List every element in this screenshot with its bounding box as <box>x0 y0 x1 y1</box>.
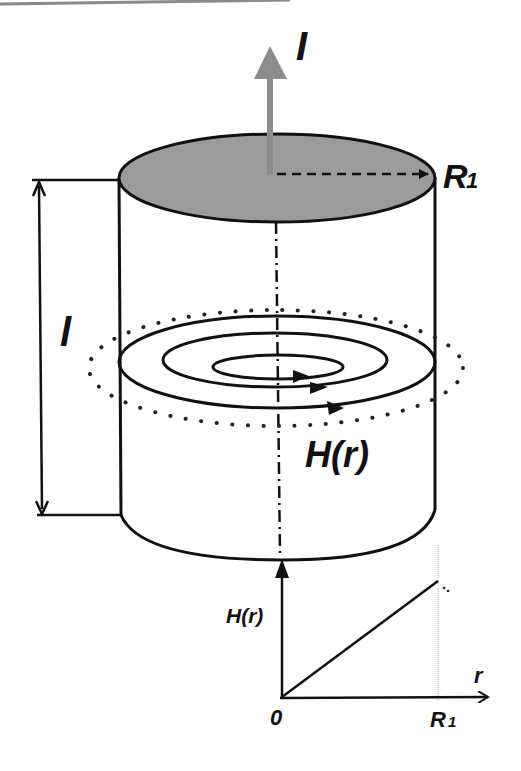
svg-text:1: 1 <box>466 168 478 193</box>
axis-line <box>276 222 280 555</box>
length-dimension <box>32 180 121 515</box>
scan-edge <box>0 0 290 4</box>
svg-text:R: R <box>443 157 468 195</box>
graph-r1-label: R <box>430 707 446 732</box>
cylinder-top-face <box>119 134 435 222</box>
graph-y-label: H(r) <box>226 604 263 627</box>
y-axis-arrow-icon <box>275 559 289 578</box>
field-label: H(r) <box>305 434 369 475</box>
graph-r1-sub: 1 <box>448 713 456 730</box>
inner-arrow-icon <box>293 370 309 383</box>
cylinder-field-diagram: I R 1 l H(r) H(r) r 0 R 1 <box>0 0 521 771</box>
field-line-plot <box>282 581 438 697</box>
cylinder-bottom-arc <box>121 510 435 560</box>
graph-x-label: r <box>474 663 484 688</box>
continuation-dot <box>447 590 450 593</box>
radius-label: R 1 <box>443 157 478 195</box>
continuation-dot <box>443 587 446 590</box>
x-axis <box>280 697 488 698</box>
field-lines <box>89 310 463 426</box>
length-label: l <box>60 310 72 354</box>
field-graph: H(r) r 0 R 1 <box>226 545 488 732</box>
current-label: I <box>296 24 308 68</box>
current-arrow-head <box>254 46 287 79</box>
cylinder-left-side <box>119 178 121 515</box>
graph-origin-label: 0 <box>270 705 283 730</box>
